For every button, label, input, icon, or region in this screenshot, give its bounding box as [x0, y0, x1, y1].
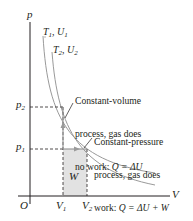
constant-pressure-annotation: Constant-pressure process, gas does work…: [94, 114, 169, 221]
origin-label: O: [20, 200, 28, 211]
v-axis-label: V: [172, 189, 179, 200]
v2-label: V2: [82, 200, 92, 213]
p1-label: p1: [16, 141, 25, 154]
isotherm-t2-label: T2, U2: [53, 45, 78, 57]
v1-label: V1: [56, 200, 66, 213]
isotherm-t1-label: T1, U1: [43, 27, 68, 39]
leader-line-constant-volume: [65, 103, 73, 118]
p-axis-label: p: [27, 9, 33, 20]
p2-label: p2: [16, 99, 25, 112]
